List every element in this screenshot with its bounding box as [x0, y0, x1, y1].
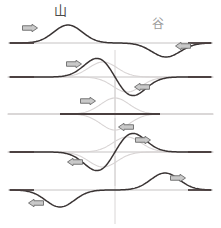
- arrow-right-crest-row-3: [81, 97, 96, 105]
- arrow-left-trough-row-3: [119, 123, 134, 131]
- arrow-left-trough-row-2: [135, 83, 150, 91]
- trough-label-valley: 谷: [152, 18, 164, 30]
- arrow-right-crest-row-5: [171, 174, 186, 182]
- ghost-wave-row-4-1: [8, 137, 213, 152]
- resultant-wave-row-1: [10, 25, 211, 57]
- arrow-right-crest-row-1: [23, 24, 38, 32]
- arrow-left-trough-row-5: [29, 199, 44, 207]
- ghost-wave-row-3-2: [8, 114, 213, 130]
- arrow-right-crest-row-2: [67, 60, 82, 68]
- ghost-wave-row-2-2: [8, 77, 213, 92]
- crest-label-mountain: 山: [54, 4, 67, 17]
- wave-superposition-diagram: [0, 0, 221, 228]
- baseline-group: [8, 43, 213, 190]
- direction-arrow-group: [23, 24, 191, 207]
- arrow-left-trough-row-4: [68, 158, 83, 166]
- ghost-wave-row-3-1: [8, 98, 213, 114]
